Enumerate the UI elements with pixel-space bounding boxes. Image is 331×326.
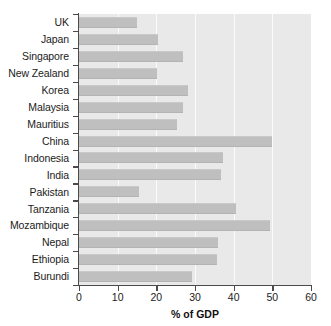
y-axis-tick xyxy=(73,200,78,201)
y-axis-tick xyxy=(73,183,78,184)
x-axis-title: % of GDP xyxy=(79,309,311,320)
y-axis-tick-label-malaysia: Malaysia xyxy=(0,99,74,116)
y-axis-tick xyxy=(73,133,78,134)
x-axis-tick-label-40: 40 xyxy=(228,292,240,303)
y-axis-label-text: New Zealand xyxy=(8,68,69,79)
bar-row[interactable] xyxy=(79,268,311,285)
bar-row[interactable] xyxy=(79,82,311,99)
y-axis-tick xyxy=(73,65,78,66)
bar-row[interactable] xyxy=(79,217,311,234)
x-axis-tick-label-0: 0 xyxy=(76,292,82,303)
y-axis-tick xyxy=(73,268,78,269)
y-axis-tick-label-india: India xyxy=(0,166,74,183)
bar-row[interactable] xyxy=(79,234,311,251)
y-axis-tick-label-singapore: Singapore xyxy=(0,48,74,65)
bar-row[interactable] xyxy=(79,48,311,65)
y-axis-tick-label-new-zealand: New Zealand xyxy=(0,65,74,82)
bar-chart: UK Japan Singapore New Zealand Korea Mal… xyxy=(0,0,331,326)
y-axis-tick-label-japan: Japan xyxy=(0,31,74,48)
y-axis-tick-label-nepal: Nepal xyxy=(0,234,74,251)
y-axis-tick-label-burundi: Burundi xyxy=(0,268,74,285)
bar-row[interactable] xyxy=(79,166,311,183)
y-axis-tick-label-ethiopia: Ethiopia xyxy=(0,251,74,268)
bar-indonesia[interactable] xyxy=(79,152,223,163)
y-axis-label-text: Mauritius xyxy=(27,119,69,130)
y-axis-label-text: Japan xyxy=(41,34,69,45)
y-axis-label-text: Korea xyxy=(41,85,69,96)
y-axis-label-text: Burundi xyxy=(34,271,70,282)
y-axis-label-text: Singapore xyxy=(22,51,69,62)
bar-ethiopia[interactable] xyxy=(79,254,217,265)
y-axis-line xyxy=(78,13,79,286)
y-axis-label-text: Ethiopia xyxy=(32,254,69,265)
bar-pakistan[interactable] xyxy=(79,186,139,197)
bar-burundi[interactable] xyxy=(79,271,192,282)
bar-row[interactable] xyxy=(79,150,311,167)
bar-china[interactable] xyxy=(79,136,272,147)
y-axis-tick-label-china: China xyxy=(0,133,74,150)
x-axis-tick-label-60: 60 xyxy=(305,292,317,303)
bar-row[interactable] xyxy=(79,183,311,200)
y-axis-label-text: Nepal xyxy=(42,237,69,248)
y-axis-tick xyxy=(73,234,78,235)
bar-row[interactable] xyxy=(79,14,311,31)
y-axis-tick xyxy=(73,14,78,15)
y-axis-label-text: UK xyxy=(55,17,69,28)
y-axis-tick xyxy=(73,99,78,100)
y-axis-tick xyxy=(73,116,78,117)
x-axis-tick-label-10: 10 xyxy=(112,292,124,303)
x-axis-tick-label-30: 30 xyxy=(189,292,201,303)
bar-mauritius[interactable] xyxy=(79,119,177,130)
y-axis-tick xyxy=(73,31,78,32)
bar-row[interactable] xyxy=(79,251,311,268)
bar-korea[interactable] xyxy=(79,85,188,96)
y-axis-tick-label-tanzania: Tanzania xyxy=(0,200,74,217)
y-axis-tick xyxy=(73,251,78,252)
bar-nepal[interactable] xyxy=(79,237,218,248)
bar-row[interactable] xyxy=(79,99,311,116)
y-axis-tick xyxy=(73,48,78,49)
y-axis-tick xyxy=(73,217,78,218)
bar-row[interactable] xyxy=(79,65,311,82)
bar-row[interactable] xyxy=(79,200,311,217)
bar-tanzania[interactable] xyxy=(79,203,236,214)
bar-row[interactable] xyxy=(79,116,311,133)
y-axis-tick-label-mozambique: Mozambique xyxy=(0,217,74,234)
bar-malaysia[interactable] xyxy=(79,102,183,113)
y-axis-tick-label-indonesia: Indonesia xyxy=(0,150,74,167)
bar-row[interactable] xyxy=(79,31,311,48)
bar-india[interactable] xyxy=(79,169,221,180)
y-axis-label-text: India xyxy=(47,170,69,181)
y-axis-tick xyxy=(73,166,78,167)
x-axis-tick-label-20: 20 xyxy=(150,292,162,303)
plot-area xyxy=(79,14,311,285)
y-axis-label-text: Tanzania xyxy=(28,204,69,215)
y-axis-labels: UK Japan Singapore New Zealand Korea Mal… xyxy=(0,14,74,285)
y-axis-tick-label-uk: UK xyxy=(0,14,74,31)
bar-japan[interactable] xyxy=(79,34,158,45)
y-axis-label-text: Pakistan xyxy=(30,187,69,198)
y-axis-label-text: Mozambique xyxy=(10,220,69,231)
y-axis-tick-label-korea: Korea xyxy=(0,82,74,99)
bar-row[interactable] xyxy=(79,133,311,150)
bars-group xyxy=(79,14,311,285)
bar-uk[interactable] xyxy=(79,17,137,28)
y-axis-tick-label-mauritius: Mauritius xyxy=(0,116,74,133)
y-axis-tick-label-pakistan: Pakistan xyxy=(0,183,74,200)
bar-mozambique[interactable] xyxy=(79,220,270,231)
bar-new-zealand[interactable] xyxy=(79,68,157,79)
y-axis-tick xyxy=(73,82,78,83)
y-axis-label-text: Malaysia xyxy=(28,102,69,113)
y-axis-tick xyxy=(73,150,78,151)
bar-singapore[interactable] xyxy=(79,51,183,62)
y-axis-label-text: China xyxy=(42,136,69,147)
y-axis-label-text: Indonesia xyxy=(24,153,69,164)
x-axis-tick-label-50: 50 xyxy=(266,292,278,303)
y-axis-tick xyxy=(73,285,78,286)
